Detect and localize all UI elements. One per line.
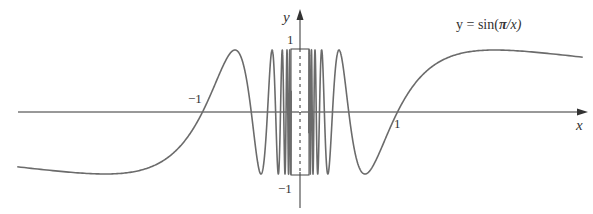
equation-suffix: /x) xyxy=(507,17,522,32)
equation-prefix: y = sin( xyxy=(456,17,499,32)
x-axis-label: x xyxy=(576,118,583,133)
equation-label: y = sin(π/x) xyxy=(456,18,521,32)
x-axis-arrow-icon xyxy=(577,109,588,116)
plot-svg xyxy=(0,0,593,214)
y-axis-arrow-icon xyxy=(297,9,304,20)
x-tick-pos-1: 1 xyxy=(394,117,401,130)
y-tick-pos-1: 1 xyxy=(287,33,294,46)
y-tick-neg-1: −1 xyxy=(278,182,292,195)
equation-pi: π xyxy=(499,17,507,32)
x-tick-neg-1: −1 xyxy=(188,92,202,105)
y-axis-label: y xyxy=(283,10,290,25)
graph-figure: y = sin(π/x) x y −1 1 1 −1 xyxy=(0,0,593,214)
